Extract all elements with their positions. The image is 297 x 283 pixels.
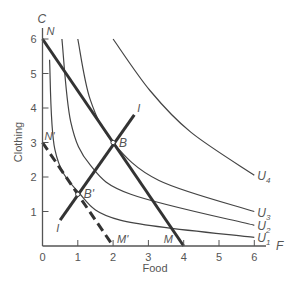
curve-label-u4: U4 — [257, 169, 271, 185]
label-n-prime: N' — [45, 130, 56, 142]
y-tick-label-3: 3 — [30, 137, 36, 149]
x-tick-label-2: 2 — [110, 251, 116, 263]
x-axis-letter: F — [276, 239, 284, 253]
y-tick-label-1: 1 — [30, 206, 36, 218]
budget-lines — [43, 39, 184, 246]
label-n: N — [47, 25, 55, 37]
curve-u4 — [113, 39, 254, 175]
point-b-prime — [76, 192, 80, 196]
x-tick-label-1: 1 — [75, 251, 81, 263]
point-b-prime-label: B' — [84, 187, 95, 201]
y-axis-title: Clothing — [12, 122, 24, 162]
y-tick-label-6: 6 — [30, 33, 36, 45]
point-b-label: B — [119, 136, 127, 150]
x-tick-label-4: 4 — [181, 251, 187, 263]
label-m: M — [164, 233, 174, 245]
y-tick-label-5: 5 — [30, 68, 36, 80]
y-tick-label-4: 4 — [30, 102, 36, 114]
labels: U1U2U3U4NMN'M'IIBB'CF0123456123456FoodCl… — [12, 12, 284, 274]
curve-label-u3: U3 — [257, 206, 271, 222]
x-tick-label-5: 5 — [216, 251, 222, 263]
axes — [43, 28, 267, 246]
income-consumption-line — [60, 115, 134, 220]
indifference-curves — [50, 39, 255, 237]
x-tick-label-0: 0 — [39, 251, 45, 263]
indifference-curve-chart: U1U2U3U4NMN'M'IIBB'CF0123456123456FoodCl… — [0, 0, 297, 283]
label-m-prime: M' — [117, 233, 129, 245]
label-i-start: I — [56, 222, 59, 234]
x-tick-label-6: 6 — [251, 251, 257, 263]
label-i-end: I — [137, 102, 140, 114]
curve-u1 — [50, 60, 255, 238]
x-axis-title: Food — [142, 262, 167, 274]
curve-label-u2: U2 — [257, 219, 271, 235]
point-b — [111, 140, 115, 144]
curve-u3 — [78, 39, 255, 212]
y-axis-letter: C — [38, 12, 47, 26]
y-tick-label-2: 2 — [30, 171, 36, 183]
